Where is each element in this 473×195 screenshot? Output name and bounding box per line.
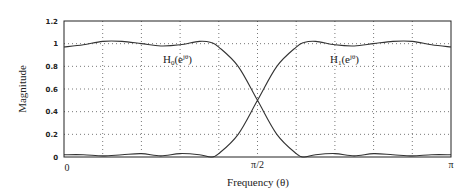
y-tick-label: 0.2 xyxy=(46,131,59,139)
magnitude-response-chart: 00.20.40.60.811.2 0π/2π Magnitude Freque… xyxy=(0,0,473,195)
h0-label: H0(ejθ) xyxy=(163,53,192,67)
y-tick-label: 0 xyxy=(53,154,58,162)
y-tick-label: 1 xyxy=(53,40,58,48)
h1-curve xyxy=(64,41,451,157)
y-tick-label: 0.4 xyxy=(46,108,59,116)
y-axis-label: Magnitude xyxy=(16,65,28,113)
h0-curve xyxy=(64,41,451,157)
h1-label: H1(ejθ) xyxy=(330,53,359,67)
y-tick-label: 0.8 xyxy=(46,63,59,71)
x-axis-ticks: 0π/2π xyxy=(65,159,454,173)
plot-curves xyxy=(64,41,451,157)
x-axis-label: Frequency (θ) xyxy=(227,176,289,189)
x-tick-label: π xyxy=(448,159,453,170)
y-axis-ticks: 00.20.40.60.811.2 xyxy=(46,18,59,162)
x-tick-label: 0 xyxy=(65,162,70,173)
x-tick-label: π/2 xyxy=(251,159,264,170)
y-tick-label: 1.2 xyxy=(46,18,59,26)
y-tick-label: 0.6 xyxy=(46,86,59,94)
